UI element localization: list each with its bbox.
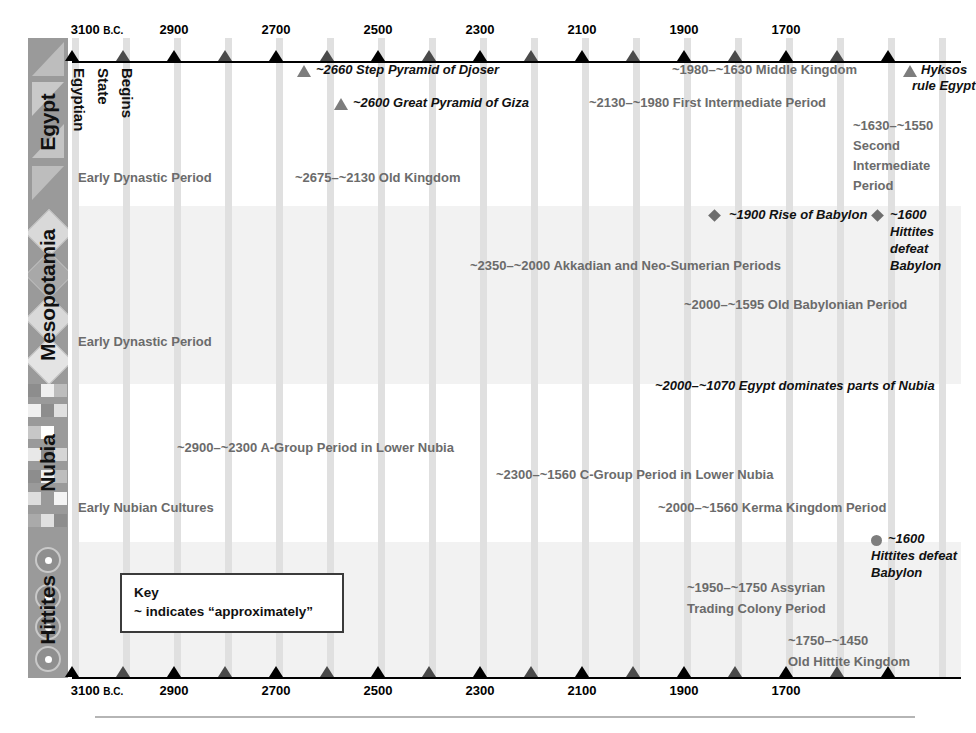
axis-label-top: 2500 (364, 22, 393, 37)
meso-period-early-dynastic: Early Dynastic Period (78, 334, 212, 349)
axis-tick-bottom (728, 666, 742, 677)
axis-label-top: 1900 (670, 22, 699, 37)
axis-tick-top (881, 50, 895, 61)
axis-label-bottom: 1900 (670, 683, 699, 698)
axis-tick-top (473, 50, 487, 61)
axis-tick-top (269, 50, 283, 61)
gridline (378, 38, 385, 678)
egypt-period-first-intermediate: ~2130–~1980 First Intermediate Period (589, 95, 826, 110)
axis-tick-bottom (575, 666, 589, 677)
egypt-period-second-intermediate-line2: Second (853, 138, 900, 153)
egypt-period-second-intermediate-line4: Period (853, 178, 893, 193)
axis-tick-bottom (677, 666, 691, 677)
axis-tick-bottom (65, 666, 79, 677)
rail-segment-nubia: Nubia (28, 384, 68, 542)
axis-tick-top (320, 50, 334, 61)
key-line: ~ indicates “approximately” (134, 602, 330, 621)
axis-tick-top (524, 50, 538, 61)
meso-event-hittites-line2: Hittites (890, 224, 934, 239)
meso-event-hittites-line3: defeat (890, 241, 928, 256)
axis-label-bottom: 2300 (466, 683, 495, 698)
egypt-vertical-label: Egyptian (72, 68, 87, 131)
axis-label-top: 3100 B.C. (71, 22, 124, 37)
gridline (531, 38, 538, 678)
axis-label-top: 2700 (262, 22, 291, 37)
gridline (837, 38, 844, 678)
axis-label-era: B.C. (103, 25, 123, 36)
meso-period-old-babylonian: ~2000–~1595 Old Babylonian Period (684, 297, 907, 312)
axis-label-value: 3100 (71, 683, 100, 698)
rail-segment-mesopotamia: Mesopotamia (28, 206, 68, 384)
axis-tick-bottom (116, 666, 130, 677)
axis-line-bottom (72, 677, 961, 679)
axis-tick-top (371, 50, 385, 61)
meso-event-hittites-line1: ~1600 (890, 207, 927, 222)
axis-tick-bottom (473, 666, 487, 677)
event-marker-triangle (297, 65, 311, 77)
rail-segment-egypt: Egypt (28, 38, 68, 206)
axis-label-top: 2300 (466, 22, 495, 37)
rail-segment-hittites: Hittites (28, 542, 68, 678)
axis-tick-top (167, 50, 181, 61)
egypt-event-giza: ~2600 Great Pyramid of Giza (353, 95, 529, 110)
axis-tick-bottom (320, 666, 334, 677)
axis-tick-bottom (218, 666, 232, 677)
axis-tick-top (116, 50, 130, 61)
event-marker-circle (871, 535, 882, 546)
event-marker-triangle (334, 98, 348, 110)
axis-tick-bottom (167, 666, 181, 677)
egypt-period-middle-kingdom: ~1980–~1630 Middle Kingdom (672, 62, 857, 77)
axis-tick-top (218, 50, 232, 61)
gridline (429, 38, 436, 678)
gridline (72, 38, 79, 678)
axis-label-bottom: 2500 (364, 683, 393, 698)
footer-divider (95, 716, 915, 718)
egypt-period-second-intermediate-line1: ~1630–~1550 (853, 118, 933, 133)
hittites-period-assyrian-line1: ~1950–~1750 Assyrian (687, 580, 825, 595)
axis-label-bottom: 2900 (160, 683, 189, 698)
axis-tick-top (677, 50, 691, 61)
gridline (633, 38, 640, 678)
axis-tick-top (575, 50, 589, 61)
gridline (939, 38, 946, 678)
egypt-event-hyksos-line1: Hyksos (921, 62, 967, 77)
hittites-period-assyrian-line2: Trading Colony Period (687, 601, 826, 616)
nubia-period-kerma: ~2000–~1560 Kerma Kingdom Period (658, 500, 886, 515)
key-box: Key ~ indicates “approximately” (120, 573, 344, 633)
axis-label-value: 3100 (71, 22, 100, 37)
key-title: Key (134, 583, 330, 602)
gridline (582, 38, 589, 678)
nubia-period-c-group: ~2300–~1560 C-Group Period in Lower Nubi… (496, 467, 773, 482)
axis-tick-bottom (269, 666, 283, 677)
axis-label-top: 2100 (568, 22, 597, 37)
region-rail: Egypt Mesopotamia (28, 38, 68, 678)
lane-band-mesopotamia (72, 206, 961, 384)
egypt-vertical-label: Begins (120, 68, 135, 118)
meso-period-akkadian: ~2350–~2000 Akkadian and Neo-Sumerian Pe… (470, 258, 781, 273)
axis-label-era: B.C. (103, 686, 123, 697)
egypt-period-early-dynastic: Early Dynastic Period (78, 170, 212, 185)
axis-tick-top (830, 50, 844, 61)
hittites-event-defeat-line1: ~1600 (888, 531, 925, 546)
axis-tick-bottom (626, 666, 640, 677)
rail-label-hittites: Hittites (36, 575, 60, 645)
axis-label-bottom: 3100 B.C. (71, 683, 124, 698)
hittites-period-old-hittite-line2: Old Hittite Kingdom (788, 654, 910, 669)
axis-label-bottom: 1700 (772, 683, 801, 698)
nubia-period-early-cultures: Early Nubian Cultures (78, 500, 214, 515)
event-marker-triangle (903, 65, 917, 77)
axis-tick-top (728, 50, 742, 61)
hittites-event-defeat-line2: Hittites defeat (871, 548, 957, 563)
gridline (888, 38, 895, 678)
egypt-period-old-kingdom: ~2675–~2130 Old Kingdom (295, 170, 460, 185)
axis-label-top: 1700 (772, 22, 801, 37)
nubia-period-egypt-dominates: ~2000–~1070 Egypt dominates parts of Nub… (655, 378, 935, 393)
axis-tick-bottom (371, 666, 385, 677)
axis-tick-bottom (422, 666, 436, 677)
axis-label-bottom: 2100 (568, 683, 597, 698)
rail-label-nubia: Nubia (36, 434, 60, 491)
hittites-period-old-hittite-line1: ~1750–~1450 (788, 633, 868, 648)
gridline (480, 38, 487, 678)
axis-tick-top (626, 50, 640, 61)
